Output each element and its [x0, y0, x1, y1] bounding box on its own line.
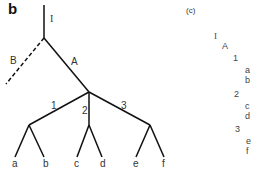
outline-3: 3 [235, 124, 240, 134]
outline-b: b [245, 75, 250, 85]
outline-a: a [245, 65, 250, 75]
panel-c-label: (c) [186, 6, 195, 16]
outline-A: A [222, 41, 228, 51]
edge-e [136, 125, 150, 157]
edge-label-B: B [10, 56, 17, 66]
edge-1 [29, 92, 89, 125]
leaf-label-c: c [74, 159, 79, 169]
outline-c: c [245, 101, 250, 111]
edge-3 [89, 92, 150, 125]
tree-diagram [0, 0, 259, 173]
edge-label-A: A [71, 57, 78, 67]
outline-I: I [214, 31, 217, 41]
leaf-label-b: b [43, 159, 49, 169]
outline-f: f [246, 146, 249, 156]
outline-e: e [246, 136, 251, 146]
edge-label-I: I [50, 14, 53, 24]
edge-A [44, 38, 89, 92]
panel-b-label: b [8, 4, 17, 14]
edge-label-3: 3 [121, 101, 127, 111]
leaf-label-f: f [162, 159, 165, 169]
edge-f [150, 125, 164, 157]
edge-a [15, 125, 29, 157]
leaf-label-a: a [12, 159, 18, 169]
edge-c [77, 125, 89, 157]
leaf-label-e: e [133, 159, 139, 169]
edge-b [29, 125, 44, 157]
outline-1: 1 [233, 53, 238, 63]
outline-2: 2 [234, 89, 239, 99]
leaf-label-d: d [100, 159, 106, 169]
edge-d [89, 125, 102, 157]
outline-d: d [245, 111, 250, 121]
edge-label-2: 2 [82, 106, 88, 116]
edge-label-1: 1 [51, 101, 57, 111]
